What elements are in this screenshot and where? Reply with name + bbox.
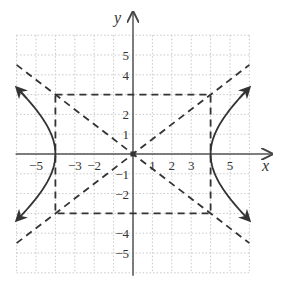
y-axis-label: y (112, 9, 122, 27)
y-tick-label: 5 (123, 48, 130, 63)
y-tick-label: −1 (115, 167, 129, 182)
x-axis-label: x (261, 157, 269, 174)
x-tick-label: −5 (29, 158, 43, 173)
x-tick-label: −2 (87, 158, 101, 173)
y-tick-label: −2 (115, 187, 129, 202)
y-tick-label: −4 (115, 226, 129, 241)
x-tick-label: 3 (188, 158, 195, 173)
x-tick-label: −3 (68, 158, 82, 173)
hyperbola-graph: −5−3−212355421−1−2−4−5 x y (0, 0, 289, 290)
y-tick-label: 2 (123, 107, 130, 122)
y-tick-label: −5 (115, 246, 129, 261)
x-tick-label: 1 (149, 158, 156, 173)
y-tick-label: 1 (123, 127, 130, 142)
y-tick-label: 4 (123, 68, 130, 83)
x-tick-label: 2 (169, 158, 176, 173)
x-tick-label: 5 (227, 158, 234, 173)
